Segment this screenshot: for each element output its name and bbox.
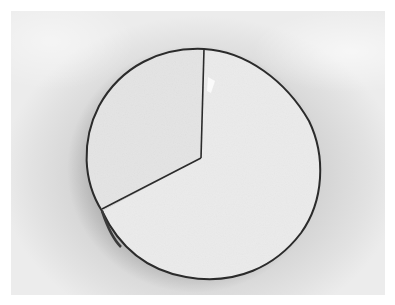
paper-pie-chart xyxy=(11,11,385,295)
photo-frame xyxy=(11,11,385,295)
